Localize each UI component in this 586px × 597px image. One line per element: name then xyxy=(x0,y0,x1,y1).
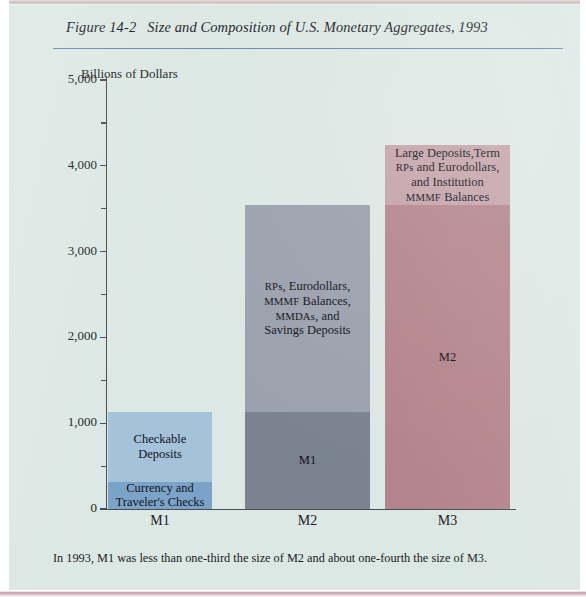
y-tick-major xyxy=(100,508,107,509)
y-axis-tick-labels: 01,0002,0003,0004,0005,000 xyxy=(29,5,97,590)
plot-area: 01,0002,0003,0004,0005,000 Currency andT… xyxy=(9,5,580,590)
y-tick-minor xyxy=(101,122,107,123)
bar-m1[interactable]: Currency andTraveler's ChecksCheckable D… xyxy=(108,412,212,509)
y-tick-label: 3,000 xyxy=(39,243,97,259)
figure-panel: Figure 14-2Size and Composition of U.S. … xyxy=(9,5,580,590)
bar-segment-label: M1 xyxy=(296,453,319,468)
figure-caption: In 1993, M1 was less than one-third the … xyxy=(53,551,563,566)
bar-segment-label: RPs, Eurodollars,MMMF Balances,MMDAs, an… xyxy=(261,279,354,338)
y-tick-major xyxy=(100,251,107,252)
bar-m3[interactable]: M2Large Deposits,TermRPs and Eurodollars… xyxy=(385,145,510,509)
y-tick-label: 1,000 xyxy=(39,414,97,430)
y-tick-major xyxy=(100,79,107,80)
y-tick-label: 5,000 xyxy=(39,71,97,87)
page-right-margin xyxy=(580,0,586,597)
bar-segment-label: Currency andTraveler's Checks xyxy=(113,481,208,511)
y-tick-label: 2,000 xyxy=(39,328,97,344)
x-tick-label-m3: M3 xyxy=(385,513,510,529)
y-tick-label: 4,000 xyxy=(39,157,97,173)
bar-segment-m3-2[interactable]: Large Deposits,TermRPs and Eurodollars,a… xyxy=(385,145,510,205)
bar-segment-m2-1[interactable]: M1 xyxy=(245,412,370,509)
y-tick-major xyxy=(100,423,107,424)
y-tick-major xyxy=(100,165,107,166)
x-tick-label-m1: M1 xyxy=(108,513,212,529)
y-tick-label: 0 xyxy=(39,500,97,516)
bar-segment-label: M2 xyxy=(436,350,459,365)
bar-segment-m3-1[interactable]: M2 xyxy=(385,205,510,509)
page: Figure 14-2Size and Composition of U.S. … xyxy=(0,0,586,597)
bar-segment-label: Large Deposits,TermRPs and Eurodollars,a… xyxy=(392,146,503,205)
y-tick-minor xyxy=(101,380,107,381)
page-left-margin xyxy=(0,0,9,597)
bar-segment-m1-1[interactable]: Currency andTraveler's Checks xyxy=(108,482,212,509)
bar-m2[interactable]: M1RPs, Eurodollars,MMMF Balances,MMDAs, … xyxy=(245,205,370,509)
bar-segment-label: Checkable Deposits xyxy=(108,432,212,462)
y-tick-minor xyxy=(101,294,107,295)
y-tick-major xyxy=(100,337,107,338)
bar-segment-m2-2[interactable]: RPs, Eurodollars,MMMF Balances,MMDAs, an… xyxy=(245,205,370,413)
y-tick-minor xyxy=(101,208,107,209)
scan-edge-bottom xyxy=(0,591,586,597)
x-tick-label-m2: M2 xyxy=(245,513,370,529)
y-tick-minor xyxy=(101,466,107,467)
bar-segment-m1-2[interactable]: Checkable Deposits xyxy=(108,412,212,481)
